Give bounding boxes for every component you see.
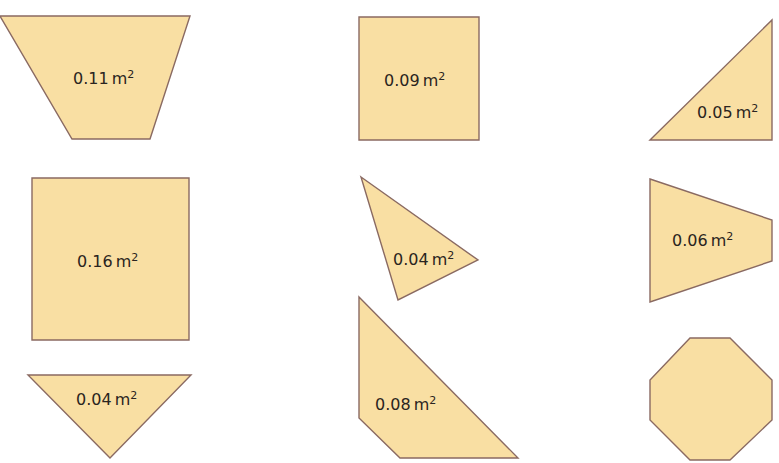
quadrilateral-polygon <box>359 297 518 458</box>
shape-right-triangle: 0.05m2 <box>650 20 772 140</box>
shape-quadrilateral: 0.08m2 <box>359 297 518 458</box>
area-label: 0.11m2 <box>73 68 134 88</box>
area-label: 0.06m2 <box>672 230 733 250</box>
right-triangle-polygon <box>650 20 772 140</box>
shape-scalene-triangle: 0.04m2 <box>361 177 478 300</box>
shape-trapezoid-sideways: 0.06m2 <box>650 179 772 302</box>
triangle-polygon <box>361 177 478 300</box>
area-label: 0.08m2 <box>375 394 436 414</box>
shape-square-small: 0.09m2 <box>359 17 479 140</box>
area-label: 0.04m2 <box>76 389 137 409</box>
shapes-diagram: 0.11m20.09m20.05m20.16m20.04m20.06m20.04… <box>0 0 779 463</box>
octagon-polygon <box>650 338 772 460</box>
area-label: 0.16m2 <box>77 251 138 271</box>
area-label: 0.09m2 <box>384 70 445 90</box>
area-label: 0.04m2 <box>393 249 454 269</box>
shape-triangle-down: 0.04m2 <box>28 375 191 458</box>
shape-trapezoid-inverted: 0.11m2 <box>0 16 190 139</box>
shape-square-large: 0.16m2 <box>32 178 189 340</box>
triangle-polygon <box>28 375 191 458</box>
shape-octagon <box>650 338 772 460</box>
area-label: 0.05m2 <box>697 102 758 122</box>
